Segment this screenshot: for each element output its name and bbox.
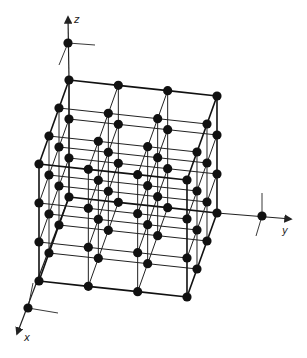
lattice-node bbox=[94, 137, 103, 146]
lattice-node bbox=[54, 220, 63, 229]
lattice-node bbox=[34, 237, 43, 246]
lattice-node bbox=[182, 175, 191, 184]
lattice-edge bbox=[148, 225, 197, 230]
lattice-node bbox=[182, 214, 191, 223]
lattice-edge bbox=[59, 186, 108, 191]
lattice-node bbox=[104, 226, 113, 235]
lattice-edge bbox=[118, 202, 167, 207]
axis-x-point bbox=[23, 303, 32, 312]
lattice-node bbox=[153, 153, 162, 162]
lattice-node bbox=[64, 153, 73, 162]
lattice-edge bbox=[88, 169, 137, 174]
lattice-node bbox=[212, 169, 221, 178]
lattice-edge bbox=[88, 208, 137, 213]
lattice-edge bbox=[49, 214, 98, 219]
lattice-node bbox=[212, 91, 221, 100]
lattice-edge bbox=[98, 258, 147, 263]
axis-y bbox=[217, 213, 291, 219]
lattice-edge bbox=[168, 130, 217, 135]
lattice-node bbox=[182, 292, 191, 301]
lattice-node bbox=[163, 203, 172, 212]
lattice-node bbox=[64, 75, 73, 84]
lattice-node bbox=[54, 181, 63, 190]
lattice-edge bbox=[148, 264, 197, 269]
lattice-node bbox=[64, 114, 73, 123]
axis-label-x: x bbox=[23, 332, 30, 343]
lattice-node bbox=[34, 198, 43, 207]
lattice-node bbox=[133, 248, 142, 257]
lattice-edge bbox=[69, 80, 118, 85]
lattice-edge bbox=[158, 236, 207, 241]
lattice-edge bbox=[138, 253, 187, 258]
lattice-edge bbox=[98, 141, 147, 146]
lattice-node bbox=[44, 131, 53, 140]
lattice-node bbox=[34, 159, 43, 168]
lattice-node bbox=[54, 142, 63, 151]
lattice-edge bbox=[69, 158, 118, 163]
lattice-edge bbox=[69, 197, 118, 202]
lattice-node bbox=[212, 130, 221, 139]
lattice-edge bbox=[118, 163, 167, 168]
lattice-edge bbox=[108, 230, 157, 235]
lattice-edge bbox=[39, 203, 88, 208]
lattice-node bbox=[94, 215, 103, 224]
lattice-nodes bbox=[34, 75, 221, 301]
lattice-edge bbox=[148, 186, 197, 191]
lattice-edge bbox=[59, 225, 108, 230]
lattice-node bbox=[143, 220, 152, 229]
lattice-node bbox=[202, 158, 211, 167]
lattice-node bbox=[153, 114, 162, 123]
lattice-node bbox=[114, 198, 123, 207]
lattice-node bbox=[202, 119, 211, 128]
lattice-edge bbox=[39, 281, 88, 286]
lattice-edge bbox=[108, 113, 157, 118]
lattice-node bbox=[84, 243, 93, 252]
lattice-edge bbox=[39, 242, 88, 247]
lattice-edge bbox=[98, 180, 147, 185]
lattice-node bbox=[143, 259, 152, 268]
lattice-edge bbox=[118, 124, 167, 129]
lattice-edge bbox=[158, 197, 207, 202]
lattice-node bbox=[64, 192, 73, 201]
lattice-node bbox=[94, 254, 103, 263]
lattice-node bbox=[44, 209, 53, 218]
cubic-lattice-diagram: x y z bbox=[0, 0, 307, 358]
lattice-node bbox=[202, 236, 211, 245]
lattice-node bbox=[114, 120, 123, 129]
lattice-edge bbox=[138, 214, 187, 219]
axis-y-point bbox=[257, 211, 266, 220]
lattice-node bbox=[182, 253, 191, 262]
lattice-edge bbox=[118, 85, 167, 90]
lattice-node bbox=[84, 165, 93, 174]
lattice-edge bbox=[148, 147, 197, 152]
lattice-node bbox=[114, 159, 123, 168]
lattice-node bbox=[84, 204, 93, 213]
lattice-edge bbox=[59, 147, 108, 152]
lattice-node bbox=[143, 181, 152, 190]
lattice-node bbox=[192, 147, 201, 156]
lattice-edge bbox=[158, 119, 207, 124]
lattice-edge bbox=[168, 169, 217, 174]
lattice-node bbox=[133, 287, 142, 296]
lattice-node bbox=[192, 264, 201, 273]
lattice-node bbox=[163, 86, 172, 95]
lattice-edge bbox=[49, 253, 98, 258]
lattice-edge bbox=[108, 191, 157, 196]
lattice-edge bbox=[98, 219, 147, 224]
axis-z bbox=[68, 17, 69, 80]
axis-z-point bbox=[63, 38, 72, 47]
lattice-node bbox=[133, 209, 142, 218]
lattice-node bbox=[163, 125, 172, 134]
lattice-edge bbox=[88, 247, 137, 252]
axis-label-y: y bbox=[281, 225, 289, 236]
lattice-node bbox=[192, 225, 201, 234]
lattice-node bbox=[212, 208, 221, 217]
lattice-edge bbox=[59, 108, 108, 113]
lattice-node bbox=[84, 282, 93, 291]
lattice-edge bbox=[158, 158, 207, 163]
lattice-node bbox=[192, 186, 201, 195]
lattice-edge bbox=[138, 292, 187, 297]
lattice-edge bbox=[39, 164, 88, 169]
lattice-edge bbox=[49, 175, 98, 180]
lattice-edge bbox=[168, 208, 217, 213]
